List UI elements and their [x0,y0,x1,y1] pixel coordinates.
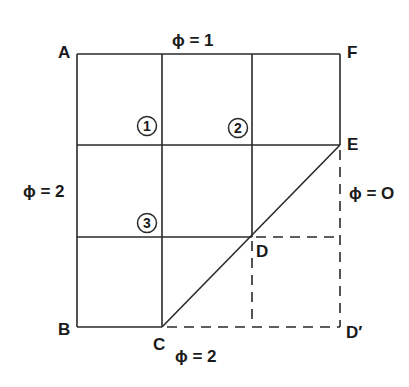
boundary-label-left: ϕ = 2 [23,182,65,201]
point-label-F: F [347,43,357,62]
node-3-label: 3 [143,215,151,231]
node-1: 1 [138,117,157,136]
diagonal-boundary-C-E [162,145,340,327]
point-label-A: A [58,43,70,62]
boundary-label-right: ϕ = O [349,184,394,203]
point-label-D: D [256,242,268,261]
node-2: 2 [229,119,248,138]
point-label-E: E [347,135,358,154]
node-2-label: 2 [234,120,242,136]
point-label-D-prime: D′ [346,323,362,342]
node-1-label: 1 [143,118,151,134]
boundary-label-bottom: ϕ = 2 [175,347,217,366]
potential-grid-diagram: 1 2 3 A F E D B C D′ ϕ = 1 ϕ = 2 ϕ = O ϕ… [0,0,409,387]
solid-grid-lines [77,54,340,327]
boundary-label-top: ϕ = 1 [172,31,214,50]
dashed-extension-lines [167,150,340,327]
node-3: 3 [138,214,157,233]
point-label-B: B [58,320,70,339]
point-label-C: C [153,335,165,354]
